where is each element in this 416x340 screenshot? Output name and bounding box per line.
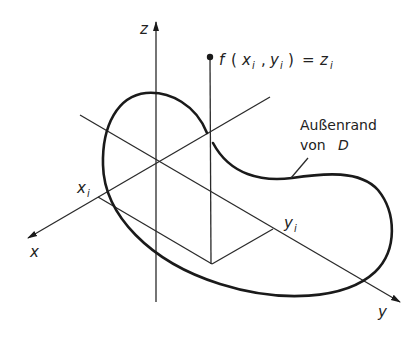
svg-text:von: von [300,137,326,153]
yi-projection-line [212,229,273,264]
y-axis [80,115,400,302]
coordinate-diagram: z x y x i y i f ( x i , y i ) = z i Auße… [0,0,416,340]
function-expression: f ( x i , y i ) = z i [219,51,333,71]
svg-text:z: z [319,51,329,69]
function-point-icon [207,54,213,60]
svg-text:D: D [338,137,349,153]
svg-text:i: i [87,188,90,199]
svg-text:i: i [252,60,255,71]
svg-text:(: ( [231,51,237,69]
svg-text:=: = [302,51,315,69]
svg-text:i: i [294,223,297,234]
y-axis-label: y [377,303,388,321]
svg-text:i: i [280,60,283,71]
boundary-label: Außenrand von D [300,117,377,153]
x-axis-label: x [29,243,39,261]
svg-text:i: i [330,60,333,71]
svg-text:x: x [76,179,86,197]
svg-text:Außenrand: Außenrand [300,117,377,133]
svg-text:x: x [241,51,251,69]
svg-text:f: f [219,51,227,69]
svg-text:y: y [269,51,280,69]
yi-label: y i [283,214,297,234]
svg-text:): ) [288,51,294,69]
svg-text:,: , [261,51,266,69]
xi-label: x i [76,179,90,199]
svg-text:y: y [283,214,294,232]
function-value-line [210,58,211,264]
z-axis-label: z [139,20,149,38]
